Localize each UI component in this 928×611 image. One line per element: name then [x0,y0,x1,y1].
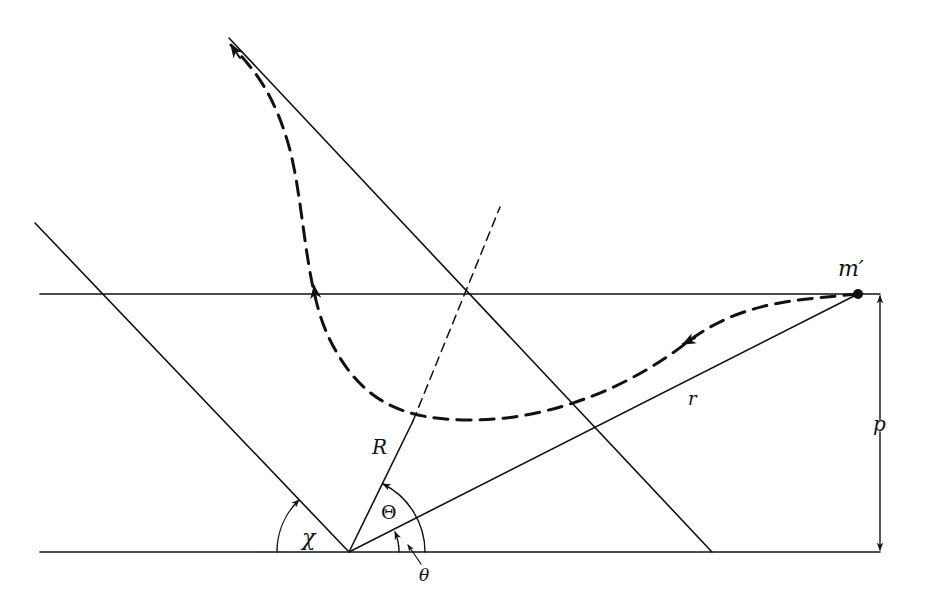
apse-distance-label: R [372,437,387,457]
theta-pointer-arrow [408,545,421,564]
theta-small-angle-arc [395,532,399,552]
particle-dot [853,289,863,299]
deflection-angle-label: χ [302,527,315,549]
impact-parameter-label: p [873,414,886,434]
trajectory-arrow-lower [683,338,695,344]
trajectory-arrow-top [231,45,240,58]
polar-angle-label: θ [419,567,429,584]
particle-label: m′ [838,258,864,280]
radius-vector-label: r [688,390,697,408]
scattering-diagram [0,0,928,611]
apse-angle-label: Θ [381,503,397,522]
radius-vector-line [349,294,858,552]
asymptote-direction-line [35,223,349,552]
chi-angle-arc [277,500,299,552]
apse-line-extension [413,207,500,421]
particle-trajectory [231,45,858,420]
outgoing-asymptote-line [229,38,712,552]
